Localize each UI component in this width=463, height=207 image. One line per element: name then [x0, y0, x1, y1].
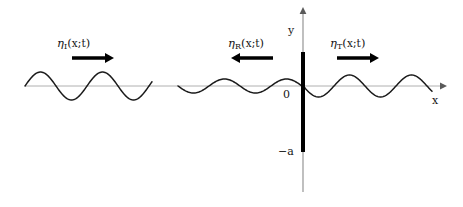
transmitted-paren-close: ): [361, 36, 366, 50]
transmitted-direction-arrowhead-icon: [370, 53, 379, 63]
transmitted-arguments: x;t: [347, 37, 361, 49]
origin-tick-label: 0: [283, 88, 290, 101]
incident-direction-arrowhead-icon: [105, 53, 114, 63]
incident-wave-label: ηI(x;t): [57, 36, 90, 51]
wave-reflection-transmission-figure: ηI(x;t) ηR(x;t) ηT(x;t) y x 0 −a: [0, 0, 463, 207]
incident-arguments: x;t: [72, 37, 86, 49]
incident-paren-close: ): [86, 36, 91, 50]
depth-tick-label: −a: [278, 145, 294, 158]
reflected-paren-close: ): [260, 36, 265, 50]
barrier-layer: [0, 0, 463, 207]
reflected-arguments: x;t: [246, 37, 260, 49]
reflected-eta-symbol: η: [228, 36, 235, 50]
reflected-wave-label: ηR(x;t): [228, 36, 264, 51]
incident-eta-symbol: η: [57, 36, 64, 50]
y-axis-label: y: [288, 24, 294, 37]
reflected-direction-arrowhead-icon: [231, 53, 240, 63]
x-axis-label: x: [432, 94, 438, 107]
transmitted-wave-label: ηT(x;t): [330, 36, 366, 51]
transmitted-eta-symbol: η: [330, 36, 337, 50]
